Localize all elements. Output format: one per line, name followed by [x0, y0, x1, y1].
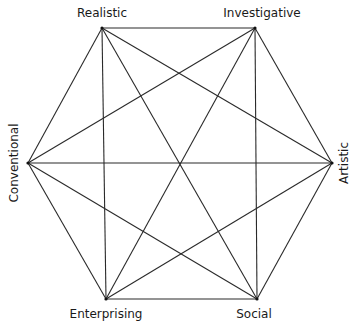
label-artistic: Artistic	[337, 142, 351, 184]
vertex-social	[255, 297, 258, 300]
label-social: Social	[236, 307, 272, 321]
label-enterprising: Enterprising	[70, 307, 143, 321]
edge-realistic-conventional	[28, 28, 102, 163]
edge-investigative-artistic	[255, 28, 332, 163]
edge-artistic-social	[257, 163, 332, 299]
riasec-hexagon-diagram: Realistic Investigative Artistic Social …	[0, 0, 358, 328]
edge-investigative-conventional	[28, 28, 255, 163]
vertex-conventional	[26, 161, 29, 164]
edge-realistic-artistic	[102, 28, 332, 163]
label-conventional: Conventional	[7, 123, 21, 202]
edges-group	[28, 28, 332, 299]
vertex-investigative	[253, 26, 256, 29]
label-investigative: Investigative	[223, 6, 300, 20]
edge-enterprising-conventional	[28, 163, 106, 299]
edge-social-conventional	[28, 163, 257, 299]
vertex-artistic	[330, 161, 333, 164]
vertex-enterprising	[104, 297, 107, 300]
edge-artistic-enterprising	[106, 163, 332, 299]
vertex-realistic	[100, 26, 103, 29]
label-realistic: Realistic	[77, 6, 127, 20]
